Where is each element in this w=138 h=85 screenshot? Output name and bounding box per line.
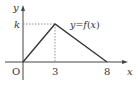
x-axis-label: x [127, 66, 133, 77]
k-label: k [14, 19, 20, 30]
curve-label: y=f(x) [69, 19, 100, 30]
curve-label-eq: = [75, 19, 83, 30]
tick-3-label: 3 [52, 66, 58, 77]
function-graph: y k O 3 8 x y=f(x) [0, 0, 138, 85]
svg-text:y=f(x): y=f(x) [69, 19, 100, 30]
curve-label-close: ) [96, 19, 100, 30]
y-axis-label: y [12, 2, 19, 13]
x-axis-arrow-icon [122, 60, 128, 64]
y-axis-arrow-icon [21, 5, 25, 11]
tick-8-label: 8 [104, 66, 110, 77]
origin-label: O [12, 66, 20, 77]
